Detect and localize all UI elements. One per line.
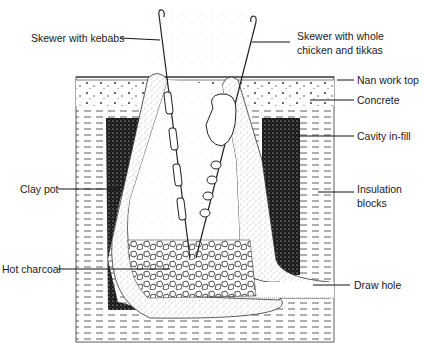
label-hot-charcoal: Hot charcoal [2,263,61,276]
label-insulation-line2: blocks [357,197,387,210]
label-clay-pot: Clay pot [20,183,59,196]
label-cavity-infill: Cavity in-fill [357,130,411,143]
label-skewer-kebabs: Skewer with kebabs [31,32,124,45]
label-skewer-chicken-line2: chicken and tikkas [297,44,383,57]
label-insulation-line1: Insulation [357,183,402,196]
label-draw-hole: Draw hole [354,279,401,292]
label-nan-work-top: Nan work top [357,74,419,87]
label-concrete: Concrete [357,94,400,107]
label-skewer-chicken-line1: Skewer with whole [297,30,384,43]
